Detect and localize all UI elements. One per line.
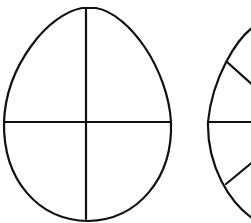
- egg-1-outline: [4, 8, 171, 221]
- egg-2-upper-diagonal: [227, 62, 251, 87]
- egg-2-lower-diagonal: [226, 160, 251, 184]
- egg-diagram: [0, 0, 251, 223]
